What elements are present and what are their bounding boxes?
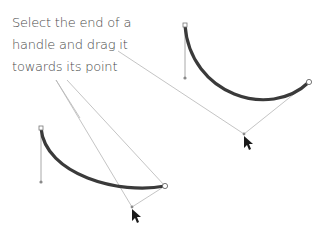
handle-point[interactable] — [183, 76, 186, 79]
anchor-point-end[interactable] — [162, 183, 167, 188]
bezier-curve[interactable] — [185, 25, 309, 100]
anchor-point-end[interactable] — [306, 79, 311, 84]
callout-lines — [56, 51, 244, 207]
drag-handle-point[interactable] — [243, 133, 246, 136]
handle-point[interactable] — [39, 180, 42, 183]
top-right-figure — [183, 23, 312, 150]
anchor-point-start[interactable] — [39, 126, 43, 130]
cursor-arrow-icon — [244, 136, 253, 150]
bottom-left-figure — [39, 126, 168, 223]
drag-handle-point[interactable] — [131, 206, 134, 209]
callout-line-left-c — [67, 80, 165, 186]
callout-line-top — [118, 51, 244, 134]
anchor-point-start[interactable] — [183, 23, 187, 27]
bezier-illustration — [0, 0, 322, 231]
cursor-arrow-icon — [132, 209, 141, 223]
